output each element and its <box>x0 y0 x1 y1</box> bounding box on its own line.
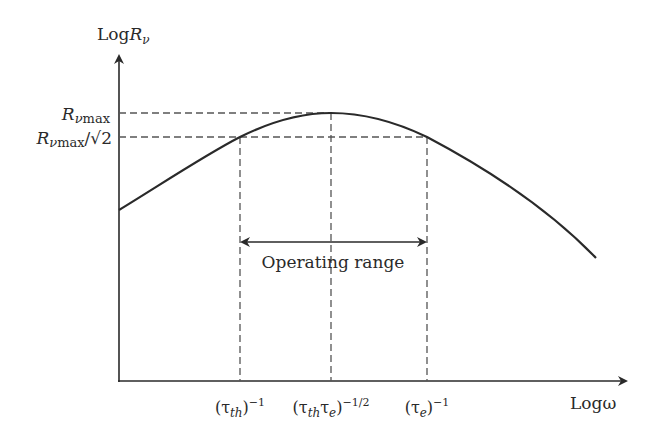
y-axis-label: LogRν <box>97 24 150 47</box>
rhalf-label: Rνmax/√2 <box>35 128 112 150</box>
responsivity-diagram: LogRν Rνmax Rνmax/√2 (τth)−1 (τthτe)−1/2… <box>0 0 655 437</box>
operating-range-label: Operating range <box>262 252 405 272</box>
responsivity-curve <box>119 113 596 258</box>
rmax-label: Rνmax <box>61 104 111 126</box>
tau-th-label: (τth)−1 <box>215 396 265 420</box>
tau-center-label: (τthτe)−1/2 <box>293 396 370 420</box>
tau-e-label: (τe)−1 <box>405 396 450 420</box>
x-axis-label: Logω <box>570 393 616 413</box>
